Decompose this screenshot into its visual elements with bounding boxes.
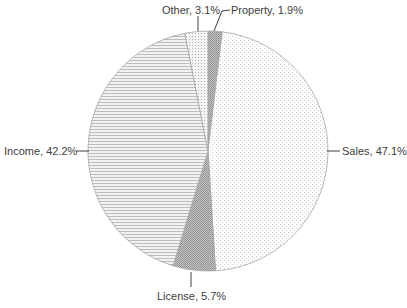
data-label-other: Other, 3.1%	[162, 4, 220, 16]
data-label-income: Income, 42.2%	[4, 145, 77, 157]
data-label-property: Property, 1.9%	[231, 4, 303, 16]
pie-slice-sales	[208, 32, 328, 271]
pie-slices	[88, 31, 328, 271]
data-label-license: License, 5.7%	[157, 290, 226, 302]
data-label-sales: Sales, 47.1%	[342, 145, 407, 157]
